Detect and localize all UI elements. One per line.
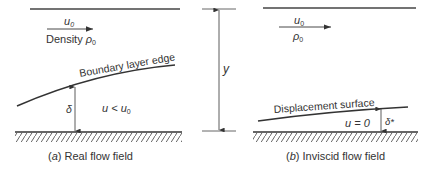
panel-b-inviscid-flow: u0 ρ0 Displacement surface u = 0 δ* (b) … xyxy=(253,8,418,162)
wall-hatching-a xyxy=(15,133,182,142)
displacement-surface-label: Displacement surface xyxy=(273,96,375,115)
caption-a: (a) Real flow field xyxy=(48,150,133,162)
y-label: y xyxy=(222,62,230,76)
zero-velocity-label: u = 0 xyxy=(345,117,371,129)
y-dimension: y xyxy=(202,9,236,131)
velocity-label-a: u0 xyxy=(64,15,74,28)
delta-label: δ xyxy=(66,103,72,115)
wall-hatching-b xyxy=(253,133,418,142)
density-label-b: ρ0 xyxy=(292,30,303,43)
boundary-layer-diagram: u0 Density ρ0 Boundary layer edge δ u < … xyxy=(0,0,429,180)
density-label-a: Density ρ0 xyxy=(46,33,96,46)
caption-b: (b) Inviscid flow field xyxy=(286,150,385,162)
delta-star-label: δ* xyxy=(385,116,394,127)
boundary-layer-edge-label: Boundary layer edge xyxy=(78,50,176,79)
velocity-label-b: u0 xyxy=(294,14,304,27)
velocity-deficit-label: u < u0 xyxy=(102,102,131,115)
panel-a-real-flow: u0 Density ρ0 Boundary layer edge δ u < … xyxy=(15,9,182,162)
